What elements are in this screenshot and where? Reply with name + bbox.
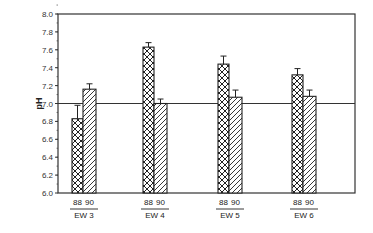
series-label: 88 <box>144 198 153 207</box>
bar-88-ew3 <box>72 119 83 193</box>
y-tick-label: 7.8 <box>42 28 54 37</box>
y-tick-label: 6.6 <box>42 135 54 144</box>
series-label: 90 <box>305 198 314 207</box>
category-label: EW 3 <box>74 211 94 220</box>
y-tick-label: 7.6 <box>42 46 54 55</box>
series-label: 88 <box>293 198 302 207</box>
series-label: 90 <box>231 198 240 207</box>
category-label: EW 6 <box>294 211 314 220</box>
series-label: 90 <box>156 198 165 207</box>
ph-bar-chart: 6.06.26.46.66.87.07.27.47.67.88.0pH8890E… <box>0 0 373 233</box>
y-tick-label: 6.0 <box>42 189 54 198</box>
y-tick-label: 6.2 <box>42 171 54 180</box>
series-label: 90 <box>85 198 94 207</box>
bar-88-ew5 <box>218 64 229 193</box>
bar-90-ew6 <box>303 96 316 193</box>
bar-90-ew5 <box>229 97 242 193</box>
y-tick-label: 7.4 <box>42 64 54 73</box>
y-tick-label: 8.0 <box>42 10 54 19</box>
y-tick-label: 6.4 <box>42 153 54 162</box>
bar-88-ew4 <box>143 47 154 193</box>
bar-90-ew4 <box>154 104 167 194</box>
bar-88-ew6 <box>292 75 303 193</box>
y-tick-label: 7.2 <box>42 82 54 91</box>
category-label: EW 5 <box>220 211 240 220</box>
y-axis-label: pH <box>34 98 44 110</box>
bar-90-ew3 <box>83 89 96 193</box>
series-label: 88 <box>219 198 228 207</box>
y-tick-label: 6.8 <box>42 117 54 126</box>
category-label: EW 4 <box>145 211 165 220</box>
series-label: 88 <box>73 198 82 207</box>
bars-group <box>72 43 316 193</box>
